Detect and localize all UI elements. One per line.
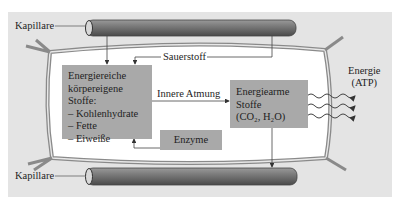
energy-label-line2: (ATP): [348, 77, 380, 89]
energy-label-line1: Energie: [348, 65, 380, 77]
enzyme-label: Enzyme: [174, 134, 208, 145]
energy-label: Energie (ATP): [348, 65, 380, 89]
low-energy-line1: Energiearme: [236, 86, 308, 99]
capillary-top-label: Kapillare: [15, 20, 54, 32]
inner-respiration-label: Innere Atmung: [157, 88, 220, 100]
capillary-bottom-icon: [86, 168, 298, 185]
high-energy-title-line1: Energiereiche: [68, 70, 152, 83]
low-energy-substances-box: Energiearme Stoffe (CO₂, H₂O): [230, 80, 308, 128]
oxygen-label: Sauerstoff: [162, 51, 207, 63]
high-energy-title-line2: körpereigene Stoffe:: [68, 83, 152, 108]
capillary-top-icon: [86, 20, 297, 36]
enzyme-box: Enzyme: [160, 130, 222, 150]
diagram-canvas: [0, 0, 396, 203]
high-energy-substances-box: Energiereiche körpereigene Stoffe: – Koh…: [62, 65, 152, 139]
list-item-carbohydrates: – Kohlenhydrate: [68, 108, 152, 121]
capillary-bottom-label: Kapillare: [15, 170, 54, 182]
list-item-fats: – Fette: [68, 120, 152, 133]
low-energy-line2: Stoffe: [236, 99, 308, 112]
low-energy-line3: (CO₂, H₂O): [236, 111, 308, 124]
cell-respiration-diagram: Kapillare Kapillare Sauerstoff Innere At…: [0, 0, 396, 203]
list-item-proteins: – Eiweiße: [68, 133, 152, 146]
